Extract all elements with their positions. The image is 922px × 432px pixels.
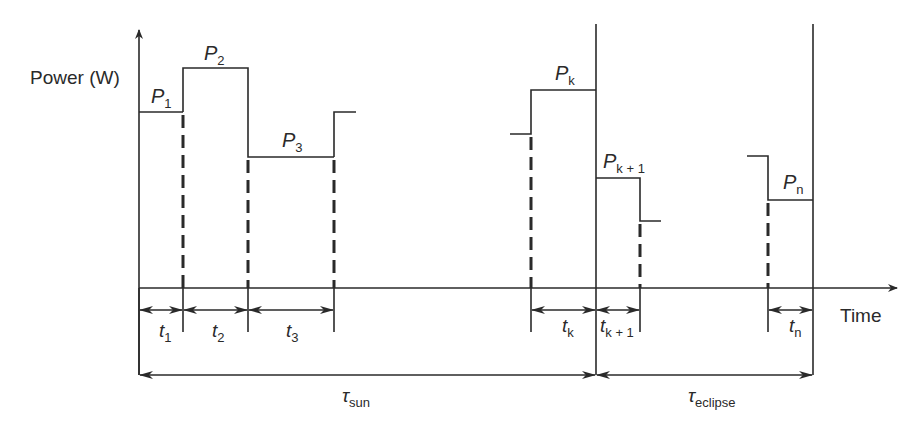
power-label-p3: P3 — [282, 129, 303, 155]
period-label-eclipse: τeclipse — [688, 385, 736, 410]
interval-label-t2: t2 — [212, 320, 225, 345]
power-label-pk1: Pk + 1 — [603, 150, 645, 176]
interval-label-tk: tk — [562, 315, 574, 340]
power-label-p1: P1 — [151, 85, 172, 111]
interval-label-tk1: tk + 1 — [600, 315, 634, 340]
interval-label-tn: tn — [789, 315, 802, 340]
interval-label-t1: t1 — [159, 320, 172, 345]
power-label-p2: P2 — [204, 42, 225, 68]
power-label-pk: Pk — [555, 62, 575, 88]
interval-label-t3: t3 — [286, 320, 299, 345]
power-profile-diagram: Power (W) Time P1 P2 P3 Pk Pk + 1 Pn t1 … — [0, 0, 922, 432]
dashed-boundaries — [183, 115, 768, 288]
period-label-sun: τsun — [342, 385, 370, 410]
x-axis-label: Time — [840, 305, 882, 326]
power-step-profile — [139, 68, 813, 221]
period-boundaries — [139, 24, 813, 375]
y-axis-label: Power (W) — [30, 67, 120, 88]
power-label-pn: Pn — [783, 171, 804, 197]
